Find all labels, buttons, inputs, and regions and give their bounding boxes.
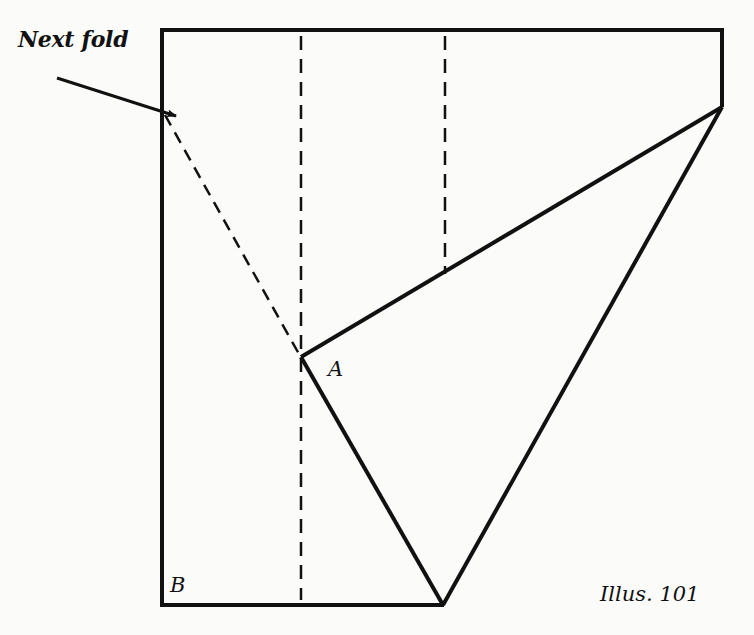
flap-edge-upper: [301, 107, 722, 357]
next-fold-arrow-icon: [57, 78, 176, 116]
flap-edge-lower: [301, 357, 443, 605]
paper-outline: [162, 30, 722, 605]
illustration-caption: Illus. 101: [600, 582, 699, 606]
folding-diagram: [0, 0, 754, 635]
flap-edge-right: [443, 107, 722, 605]
point-a-label: A: [328, 357, 343, 381]
next-fold-crease: [165, 115, 299, 354]
point-b-label: B: [170, 573, 185, 597]
next-fold-label: Next fold: [18, 26, 128, 52]
